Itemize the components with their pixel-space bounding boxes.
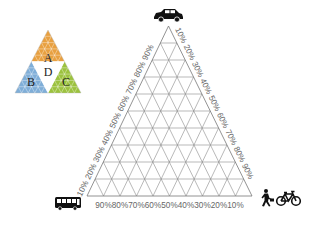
- grid-line: [95, 179, 103, 196]
- left-tick-label: 60%: [116, 94, 131, 113]
- ternary-grid: [87, 26, 252, 196]
- region-b-label: B: [27, 75, 35, 89]
- region-c-label: C: [62, 75, 70, 89]
- bottom-tick-label: 10%: [227, 201, 243, 210]
- right-tick-label: 30%: [190, 60, 205, 79]
- region-legend-inset: ABCD: [15, 30, 81, 93]
- right-tick-label: 60%: [215, 111, 230, 130]
- grid-line: [128, 111, 170, 196]
- bottom-tick-label: 20%: [211, 201, 227, 210]
- region-a-label: A: [44, 51, 53, 65]
- right-tick-label: 40%: [198, 77, 213, 96]
- bottom-tick-label: 60%: [145, 201, 161, 210]
- region-d-label: D: [44, 65, 53, 79]
- right-tick-label: 50%: [207, 94, 222, 113]
- grid-line: [170, 111, 211, 196]
- pedestrian-icon: [262, 189, 275, 207]
- bottom-tick-label: 90%: [95, 201, 111, 210]
- right-tick-label: 20%: [182, 43, 197, 62]
- left-tick-label: 10%: [75, 179, 90, 198]
- left-tick-label: 70%: [124, 77, 139, 96]
- bottom-tick-label: 30%: [194, 201, 210, 210]
- left-tick-label: 30%: [92, 145, 107, 164]
- right-tick-label: 90%: [240, 162, 255, 181]
- bicycle-icon: [277, 192, 301, 206]
- right-tick-label: 80%: [232, 145, 247, 164]
- bottom-tick-label: 80%: [112, 201, 128, 210]
- left-tick-label: 50%: [108, 111, 123, 130]
- car-icon: [154, 9, 183, 22]
- bottom-tick-label: 40%: [178, 201, 194, 210]
- bus-icon: [55, 197, 81, 210]
- left-tick-label: 20%: [83, 162, 98, 181]
- grid-line: [144, 77, 202, 196]
- bottom-tick-label: 70%: [128, 201, 144, 210]
- right-tick-label: 10%: [173, 26, 188, 45]
- ternary-diagram: ABCD 10%20%30%40%50%60%70%80%90%10%20%30…: [0, 0, 317, 226]
- bottom-tick-label: 50%: [161, 201, 177, 210]
- left-tick-label: 90%: [140, 43, 155, 62]
- grid-line: [236, 179, 244, 196]
- left-tick-label: 40%: [100, 128, 115, 147]
- left-tick-label: 80%: [132, 60, 147, 79]
- right-tick-label: 70%: [223, 128, 238, 147]
- grid-line: [137, 77, 194, 196]
